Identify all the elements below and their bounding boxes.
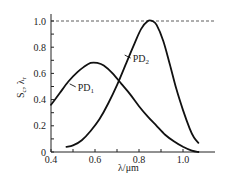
y-axis-label-sub2: r [20, 76, 28, 79]
series-label-pd1: PD1 [78, 82, 95, 95]
series-group [51, 20, 198, 152]
x-tick-label: 1.0 [177, 154, 190, 165]
y-tick-label: 1.0 [34, 16, 47, 27]
series-label-main: PD [78, 82, 91, 93]
x-tick-label: 0.4 [45, 154, 58, 165]
y-axis-label-sep: , λ [15, 79, 26, 89]
series-label-pd2: PD2 [133, 53, 150, 66]
label-leader-pd1 [70, 84, 76, 87]
x-axis-label: λ/μm [118, 162, 139, 173]
series-label-sub: 1 [90, 87, 94, 95]
labels-group: PD1PD2 [70, 53, 150, 95]
y-axis-label: Sc, λr [15, 76, 28, 98]
x-tick-label: 0.6 [89, 154, 102, 165]
series-label-sub: 2 [145, 58, 149, 66]
chart: 0.40.60.81.000.20.40.60.81.0 PD1PD2 λ/μm… [0, 0, 232, 185]
series-line-pd1 [51, 63, 198, 152]
ticks: 0.40.60.81.000.20.40.60.81.0 [34, 16, 190, 166]
y-tick-label: 0.4 [34, 94, 47, 105]
y-tick-label: 0.6 [34, 68, 47, 79]
series-label-main: PD [133, 53, 146, 64]
y-tick-label: 0 [41, 147, 46, 158]
y-tick-label: 0.2 [34, 120, 47, 131]
y-tick-label: 0.8 [34, 42, 47, 53]
